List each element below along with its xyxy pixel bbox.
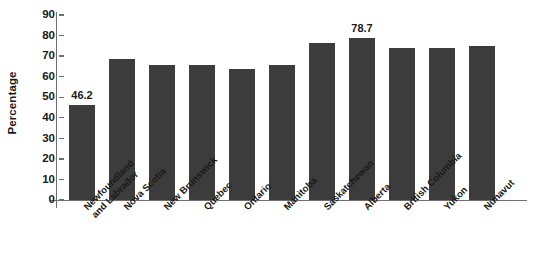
bar-value-label: 46.2	[71, 89, 92, 101]
bar[interactable]	[469, 46, 495, 200]
y-axis-title: Percentage	[0, 0, 22, 205]
bar[interactable]	[389, 48, 415, 200]
bar-slot	[222, 15, 262, 200]
bar-value-label: 78.7	[351, 22, 372, 34]
bar-chart-figure: Percentage 0102030405060708090 46.278.7 …	[0, 0, 537, 275]
bar[interactable]	[229, 69, 255, 200]
bar-slot	[382, 15, 422, 200]
bar[interactable]	[69, 105, 95, 200]
bar-slot	[462, 15, 502, 200]
y-axis-title-text: Percentage	[5, 71, 17, 134]
bar-slot	[262, 15, 302, 200]
x-axis-category-labels: Newfoundlandand LabradorNova ScotiaNew B…	[57, 203, 527, 275]
bar-slot: 46.2	[62, 15, 102, 200]
bar-slot	[302, 15, 342, 200]
bar[interactable]	[269, 65, 295, 200]
